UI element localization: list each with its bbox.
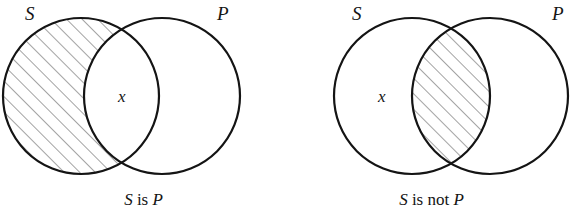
caption-predicate-left: P xyxy=(152,190,162,209)
caption-copula-right: is not xyxy=(412,190,449,209)
caption-right: S is not P xyxy=(288,190,575,210)
caption-copula-left: is xyxy=(137,190,148,209)
caption-subject-left: S xyxy=(124,190,133,209)
venn-svg-left xyxy=(0,0,287,190)
set-label-s-left: S xyxy=(25,4,35,23)
set-label-p-left: P xyxy=(217,4,229,23)
member-marker-x-left: x xyxy=(118,88,126,105)
caption-subject-right: S xyxy=(399,190,408,209)
caption-predicate-right: P xyxy=(453,190,463,209)
venn-svg-right xyxy=(288,0,575,190)
venn-panel-s-is-not-p: S P x S is not P xyxy=(288,0,575,219)
venn-diagram-figure: S P x S is P xyxy=(0,0,575,219)
set-label-s-right: S xyxy=(352,4,362,23)
member-marker-x-right: x xyxy=(378,88,386,105)
set-label-p-right: P xyxy=(552,4,564,23)
caption-left: S is P xyxy=(0,190,287,210)
venn-panel-s-is-p: S P x S is P xyxy=(0,0,287,219)
